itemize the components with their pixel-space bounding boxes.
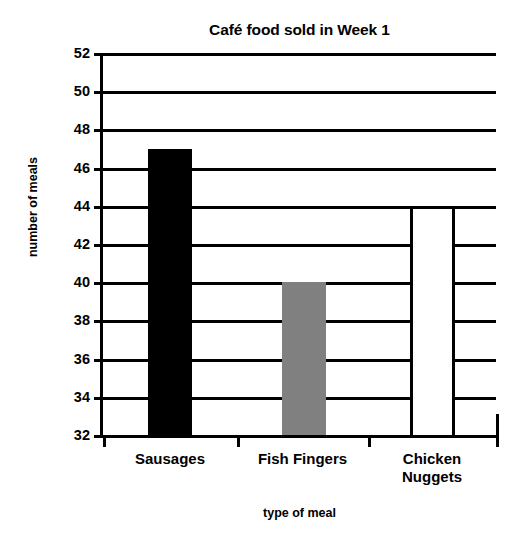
x-axis-tick <box>368 436 371 447</box>
y-axis-tick-label: 46 <box>56 161 90 176</box>
chart-title: Café food sold in Week 1 <box>103 21 496 39</box>
right-axis-stub <box>496 414 499 436</box>
x-axis-tick <box>103 436 106 447</box>
x-axis-category-label: Sausages <box>103 450 237 468</box>
x-axis-tick <box>237 436 240 447</box>
y-axis-tick-label: 32 <box>56 428 90 443</box>
bar <box>148 149 192 436</box>
y-axis-tick-label: 48 <box>56 122 90 137</box>
y-axis-tick-label: 40 <box>56 275 90 290</box>
x-axis-title: type of meal <box>103 506 496 520</box>
bar <box>282 282 326 435</box>
x-axis-category-label: Fish Fingers <box>237 450 368 468</box>
x-axis-tick <box>496 436 499 447</box>
y-axis-tick-label: 42 <box>56 237 90 252</box>
y-axis-tick-label: 52 <box>56 46 90 61</box>
y-axis-tick-label: 36 <box>56 352 90 367</box>
x-axis-category-label: Chicken Nuggets <box>368 450 496 487</box>
y-axis-tick-label: 50 <box>56 84 90 99</box>
y-axis-title: number of meals <box>26 127 40 287</box>
y-axis-tick-label: 44 <box>56 199 90 214</box>
x-axis-line <box>100 435 499 438</box>
plot-area <box>103 53 496 435</box>
y-axis-tick-label: 38 <box>56 313 90 328</box>
y-axis-tick-label: 34 <box>56 390 90 405</box>
bar-chart: Café food sold in Week 1 number of meals… <box>0 0 524 542</box>
bar <box>410 206 455 435</box>
